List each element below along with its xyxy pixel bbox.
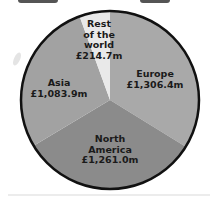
- label-line: Asia: [31, 78, 88, 89]
- label-value: £1,261.0m: [82, 155, 139, 166]
- label-line: North: [82, 134, 139, 145]
- label-north-america: North America £1,261.0m: [82, 134, 139, 166]
- label-value: £214.7m: [76, 51, 123, 62]
- label-asia: Asia £1,083.9m: [31, 78, 88, 99]
- label-europe: Europe £1,306.4m: [127, 69, 184, 90]
- label-value: £1,306.4m: [127, 80, 184, 91]
- label-rest-of-world: Rest of the world £214.7m: [76, 19, 123, 61]
- label-line: Rest: [76, 19, 123, 30]
- label-value: £1,083.9m: [31, 89, 88, 100]
- label-line: world: [76, 40, 123, 51]
- bottom-divider: [8, 194, 210, 196]
- label-line: Europe: [127, 69, 184, 80]
